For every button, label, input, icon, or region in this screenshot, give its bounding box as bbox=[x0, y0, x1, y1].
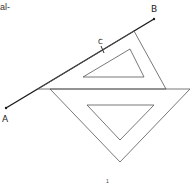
label-a: A bbox=[2, 114, 9, 124]
page-number: 1 bbox=[106, 178, 109, 184]
text-fragment: al- bbox=[0, 2, 10, 12]
point-a-marker bbox=[5, 107, 7, 109]
upper-set-square-cutout bbox=[83, 49, 144, 77]
lower-set-square-outline bbox=[50, 89, 190, 162]
label-c: C bbox=[98, 38, 103, 46]
diagram-canvas: A B C bbox=[0, 0, 193, 188]
label-b: B bbox=[151, 4, 157, 14]
lower-set-square-cutout bbox=[87, 105, 154, 140]
point-b-marker bbox=[153, 18, 155, 20]
